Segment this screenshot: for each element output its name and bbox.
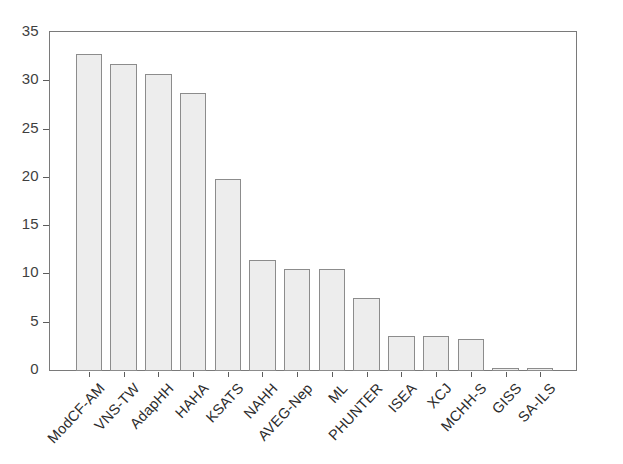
x-tick-mark xyxy=(367,372,368,377)
y-tick-label: 25 xyxy=(22,119,39,136)
bar xyxy=(492,368,518,371)
x-tick-mark xyxy=(506,372,507,377)
bar xyxy=(284,269,310,371)
x-tick-mark xyxy=(262,372,263,377)
x-tick-mark xyxy=(158,372,159,377)
bar xyxy=(110,64,136,371)
x-tick-label: XCJ xyxy=(424,380,455,411)
x-tick-mark xyxy=(228,372,229,377)
x-tick-mark xyxy=(401,372,402,377)
x-tick-mark xyxy=(436,372,437,377)
bar xyxy=(353,298,379,371)
bar xyxy=(527,368,553,371)
bar xyxy=(388,336,414,371)
bar xyxy=(215,179,241,371)
y-tick-mark xyxy=(43,80,49,81)
x-tick-mark xyxy=(332,372,333,377)
y-tick-label: 0 xyxy=(30,360,39,377)
x-tick-mark xyxy=(297,372,298,377)
bar xyxy=(458,339,484,371)
x-tick-label: ISEA xyxy=(385,380,420,416)
y-tick-mark xyxy=(43,225,49,226)
y-tick-label: 15 xyxy=(22,215,39,232)
y-tick-label: 20 xyxy=(22,167,39,184)
y-tick-mark xyxy=(43,177,49,178)
y-tick-label: 10 xyxy=(22,263,39,280)
y-tick-label: 5 xyxy=(30,312,39,329)
y-tick-mark xyxy=(43,322,49,323)
x-tick-mark xyxy=(89,372,90,377)
bar xyxy=(249,260,275,371)
bar xyxy=(76,54,102,371)
y-tick-label: 35 xyxy=(22,22,39,39)
x-tick-mark xyxy=(471,372,472,377)
bar xyxy=(180,93,206,371)
y-tick-label: 30 xyxy=(22,70,39,87)
x-tick-mark xyxy=(124,372,125,377)
x-tick-label: KSATS xyxy=(202,380,246,426)
bar-chart: 35302520151050 ModCF-AMVNS-TWAdapHHHAHAK… xyxy=(0,0,623,464)
y-tick-mark xyxy=(43,273,49,274)
bar xyxy=(319,269,345,371)
bar xyxy=(423,336,449,371)
x-tick-label: SA-ILS xyxy=(515,380,559,425)
x-tick-mark xyxy=(540,372,541,377)
bar-series xyxy=(50,32,576,371)
x-tick-mark xyxy=(193,372,194,377)
x-tick-label: ModCF-AM xyxy=(44,380,107,446)
y-tick-mark xyxy=(43,129,49,130)
bar xyxy=(145,74,171,371)
x-tick-label: ML xyxy=(325,380,351,406)
x-axis: ModCF-AMVNS-TWAdapHHHAHAKSATSNAHHAVEG-Ne… xyxy=(50,372,576,464)
